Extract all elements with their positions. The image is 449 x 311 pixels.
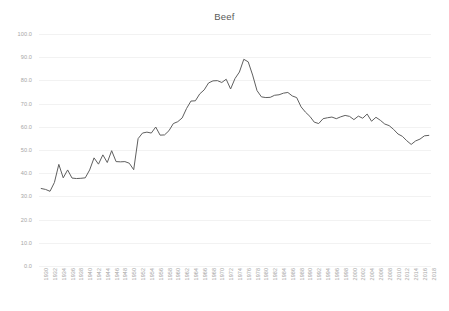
x-axis-tick-label: 1966 bbox=[202, 268, 208, 280]
x-axis-tick-label: 1980 bbox=[263, 268, 269, 280]
x-axis-tick-label: 1930 bbox=[43, 268, 49, 280]
x-axis-tick-label: 1972 bbox=[228, 268, 234, 280]
x-axis-tick-label: 1946 bbox=[114, 268, 120, 280]
x-axis-tick-label: 1964 bbox=[193, 268, 199, 280]
y-axis-tick-label: 30.0 bbox=[21, 193, 32, 199]
x-axis-tick-label: 1976 bbox=[246, 268, 252, 280]
x-axis-tick-label: 1952 bbox=[140, 268, 146, 280]
x-axis-tick-label: 1960 bbox=[175, 268, 181, 280]
gridline bbox=[39, 266, 431, 267]
y-axis-tick-label: 0.0 bbox=[24, 263, 32, 269]
x-axis-tick-label: 2016 bbox=[422, 268, 428, 280]
x-axis-tick-label: 2018 bbox=[431, 268, 437, 280]
x-axis-tick-label: 1974 bbox=[237, 268, 243, 280]
series-beef bbox=[39, 34, 431, 266]
y-axis-tick-label: 70.0 bbox=[21, 101, 32, 107]
x-axis-tick-label: 2004 bbox=[369, 268, 375, 280]
x-axis-tick-label: 1970 bbox=[219, 268, 225, 280]
x-axis-tick-label: 1988 bbox=[299, 268, 305, 280]
y-axis-tick-label: 10.0 bbox=[21, 240, 32, 246]
x-axis-tick-label: 1950 bbox=[131, 268, 137, 280]
x-axis-tick-label: 1998 bbox=[343, 268, 349, 280]
x-axis-tick-label: 1990 bbox=[307, 268, 313, 280]
x-axis-tick-label: 2006 bbox=[378, 268, 384, 280]
x-axis-tick-label: 1962 bbox=[184, 268, 190, 280]
y-axis: 100.090.080.070.060.050.040.030.020.010.… bbox=[0, 34, 36, 266]
x-axis-tick-label: 1978 bbox=[255, 268, 261, 280]
x-axis-tick-label: 1994 bbox=[325, 268, 331, 280]
beef-line-chart: Beef 100.090.080.070.060.050.040.030.020… bbox=[0, 0, 449, 311]
y-axis-tick-label: 50.0 bbox=[21, 147, 32, 153]
y-axis-tick-label: 60.0 bbox=[21, 124, 32, 130]
x-axis-tick-label: 2002 bbox=[360, 268, 366, 280]
y-axis-tick-label: 40.0 bbox=[21, 170, 32, 176]
y-axis-tick-label: 100.0 bbox=[18, 31, 33, 37]
x-axis-tick-label: 1940 bbox=[87, 268, 93, 280]
x-axis-tick-label: 1984 bbox=[281, 268, 287, 280]
x-axis-tick-label: 2000 bbox=[352, 268, 358, 280]
x-axis-tick-label: 1956 bbox=[158, 268, 164, 280]
x-axis-tick-label: 2008 bbox=[387, 268, 393, 280]
x-axis-tick-label: 2014 bbox=[413, 268, 419, 280]
x-axis-tick-label: 1938 bbox=[78, 268, 84, 280]
x-axis-tick-label: 1936 bbox=[70, 268, 76, 280]
y-axis-tick-label: 90.0 bbox=[21, 54, 32, 60]
x-axis-tick-label: 2012 bbox=[404, 268, 410, 280]
x-axis-tick-label: 1996 bbox=[334, 268, 340, 280]
x-axis-tick-label: 1942 bbox=[96, 268, 102, 280]
x-axis-tick-label: 1982 bbox=[272, 268, 278, 280]
y-axis-tick-label: 20.0 bbox=[21, 217, 32, 223]
x-axis-tick-label: 1958 bbox=[167, 268, 173, 280]
x-axis-tick-label: 1954 bbox=[149, 268, 155, 280]
x-axis-tick-label: 1948 bbox=[122, 268, 128, 280]
x-axis-tick-label: 1932 bbox=[52, 268, 58, 280]
x-axis-tick-label: 1992 bbox=[316, 268, 322, 280]
x-axis: 1930193219341936193819401942194419461948… bbox=[39, 268, 431, 308]
x-axis-tick-label: 1986 bbox=[290, 268, 296, 280]
plot-area bbox=[39, 34, 431, 266]
x-axis-tick-label: 1944 bbox=[105, 268, 111, 280]
chart-title: Beef bbox=[0, 11, 449, 23]
x-axis-tick-label: 1934 bbox=[61, 268, 67, 280]
x-axis-tick-label: 1968 bbox=[211, 268, 217, 280]
series-beef-line bbox=[41, 59, 429, 191]
x-axis-tick-label: 2010 bbox=[396, 268, 402, 280]
y-axis-tick-label: 80.0 bbox=[21, 77, 32, 83]
